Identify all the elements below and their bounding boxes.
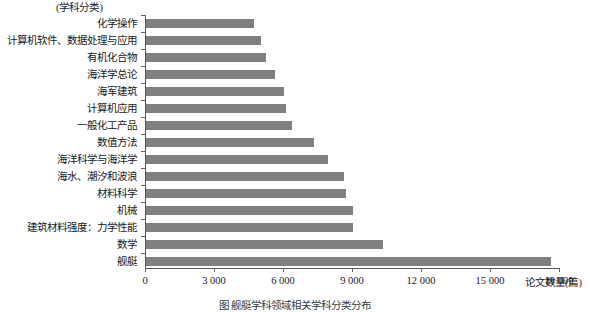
bar-row <box>145 219 559 236</box>
x-axis-tick-label: 3 000 <box>202 274 226 287</box>
category-label: 建筑材料强度：力学性能 <box>0 219 137 236</box>
bar <box>146 223 353 232</box>
bar-row <box>145 32 559 49</box>
y-axis-tick <box>141 219 145 220</box>
bar <box>146 240 383 249</box>
bar-row <box>145 151 559 168</box>
bar <box>146 189 346 198</box>
bar <box>146 206 353 215</box>
bar <box>146 36 261 45</box>
bar-row <box>145 49 559 66</box>
bar <box>146 104 286 113</box>
bar-row <box>145 168 559 185</box>
category-label: 一般化工产品 <box>0 117 137 134</box>
y-axis-tick <box>141 83 145 84</box>
bar <box>146 53 266 62</box>
bar-row <box>145 185 559 202</box>
category-label: 机械 <box>0 202 137 219</box>
bar <box>146 121 292 130</box>
x-axis-tick-label: 6 000 <box>271 274 295 287</box>
x-axis-tick <box>559 268 560 272</box>
bar <box>146 172 344 181</box>
y-axis-tick <box>141 236 145 237</box>
x-axis-tick-label: 15 000 <box>476 274 505 287</box>
bar <box>146 70 275 79</box>
bar <box>146 138 314 147</box>
bar-row <box>145 66 559 83</box>
plot-area: 03 0006 0009 00012 00015 00018 000 <box>145 15 559 268</box>
x-axis-tick-label: 12 000 <box>407 274 436 287</box>
bar <box>146 19 254 28</box>
y-axis-tick <box>141 49 145 50</box>
bar-row <box>145 100 559 117</box>
bar <box>146 257 551 266</box>
y-axis-tick <box>141 168 145 169</box>
y-axis-tick <box>141 100 145 101</box>
category-label-column: 化学操作计算机软件、数据处理与应用有机化合物海洋学总论海军建筑计算机应用一般化工… <box>0 15 141 268</box>
x-axis-tick <box>214 268 215 272</box>
y-axis-tick <box>141 117 145 118</box>
x-axis-tick-label: 9 000 <box>340 274 364 287</box>
category-label: 海军建筑 <box>0 83 137 100</box>
category-label: 海水、潮汐和波浪 <box>0 168 137 185</box>
x-axis-tick <box>145 268 146 272</box>
y-axis-tick <box>141 151 145 152</box>
category-label: 化学操作 <box>0 15 137 32</box>
x-axis-title: 论文数量(篇) <box>525 276 582 289</box>
x-axis-tick <box>490 268 491 272</box>
y-axis-tick <box>141 253 145 254</box>
category-label: 材料科学 <box>0 185 137 202</box>
figure-caption: 图 舰艇学科领域相关学科分类分布 <box>0 299 590 312</box>
bar-row <box>145 83 559 100</box>
y-axis-tick <box>141 66 145 67</box>
bar-row <box>145 15 559 32</box>
bar <box>146 87 284 96</box>
x-axis-tick-label: 0 <box>142 274 147 287</box>
y-axis-tick <box>141 185 145 186</box>
y-axis-tick <box>141 134 145 135</box>
category-label: 计算机应用 <box>0 100 137 117</box>
category-label: 计算机软件、数据处理与应用 <box>0 32 137 49</box>
x-axis-tick <box>283 268 284 272</box>
y-axis-tick <box>141 15 145 16</box>
y-axis-tick <box>141 202 145 203</box>
bar-row <box>145 117 559 134</box>
category-label: 有机化合物 <box>0 49 137 66</box>
category-label: 舰艇 <box>0 253 137 270</box>
x-axis-tick <box>352 268 353 272</box>
category-label: 数值方法 <box>0 134 137 151</box>
y-axis-caption: (学科分类) <box>56 1 103 14</box>
x-axis-tick <box>421 268 422 272</box>
bar <box>146 155 328 164</box>
category-label: 海洋学总论 <box>0 66 137 83</box>
category-label: 海洋科学与海洋学 <box>0 151 137 168</box>
bar-rows <box>145 15 559 268</box>
bar-row <box>145 236 559 253</box>
category-label: 数学 <box>0 236 137 253</box>
y-axis-tick <box>141 32 145 33</box>
bar-row <box>145 202 559 219</box>
bar-row <box>145 134 559 151</box>
